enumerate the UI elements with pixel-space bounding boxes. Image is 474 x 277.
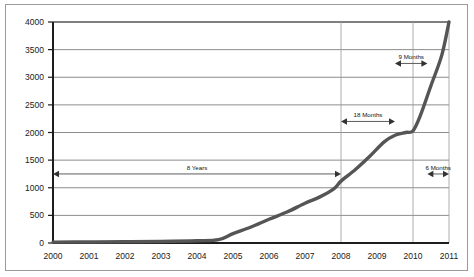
x-tick-label: 2003 <box>152 251 171 261</box>
x-tick-labels-group: 2000200120022003200420052006200720082009… <box>44 251 459 261</box>
arrowhead-right <box>335 171 341 177</box>
chart-svg: 05001000150020002500300035004000 2000200… <box>0 0 474 277</box>
annotation-arrow: 6 Months <box>425 164 450 177</box>
y-tick-labels-group: 05001000150020002500300035004000 <box>25 17 44 248</box>
x-tick-label: 2010 <box>404 251 423 261</box>
arrowhead-left <box>395 60 401 66</box>
y-tick-label: 1000 <box>25 183 44 193</box>
x-tick-label: 2001 <box>80 251 99 261</box>
annotation-label: 8 Years <box>187 164 208 171</box>
x-tick-label: 2004 <box>188 251 207 261</box>
arrowhead-right <box>421 60 427 66</box>
y-tick-label: 1500 <box>25 155 44 165</box>
x-tick-label: 2006 <box>260 251 279 261</box>
arrowhead-right <box>389 118 395 124</box>
x-tick-label: 2002 <box>116 251 135 261</box>
arrowhead-left <box>427 171 433 177</box>
arrowhead-left <box>341 118 347 124</box>
arrowhead-right <box>443 171 449 177</box>
annotation-label: 6 Months <box>425 164 450 171</box>
annotation-label: 18 Months <box>354 111 383 118</box>
x-tick-label: 2009 <box>368 251 387 261</box>
chart-screenshot: 05001000150020002500300035004000 2000200… <box>0 0 474 277</box>
y-tick-label: 3000 <box>25 72 44 82</box>
annotation-arrow: 9 Months <box>395 53 427 66</box>
annotation-label: 9 Months <box>398 53 423 60</box>
y-tick-label: 2500 <box>25 100 44 110</box>
x-tick-label: 2005 <box>224 251 243 261</box>
y-tick-label: 3500 <box>25 45 44 55</box>
x-tick-label: 2007 <box>296 251 315 261</box>
annotation-arrow: 8 Years <box>53 164 341 177</box>
y-tick-label: 2000 <box>25 128 44 138</box>
series-path <box>53 22 449 242</box>
chart-canvas: 05001000150020002500300035004000 2000200… <box>0 0 474 277</box>
annotation-arrows-group: 8 Years18 Months9 Months6 Months <box>53 53 451 177</box>
annotation-arrow: 18 Months <box>341 111 395 124</box>
x-tick-label: 2008 <box>332 251 351 261</box>
y-tick-label: 0 <box>39 238 44 248</box>
x-tick-label: 2000 <box>44 251 63 261</box>
x-tick-label: 2011 <box>440 251 459 261</box>
data-series-line <box>53 22 449 242</box>
y-tick-label: 500 <box>30 210 44 220</box>
y-tick-label: 4000 <box>25 17 44 27</box>
